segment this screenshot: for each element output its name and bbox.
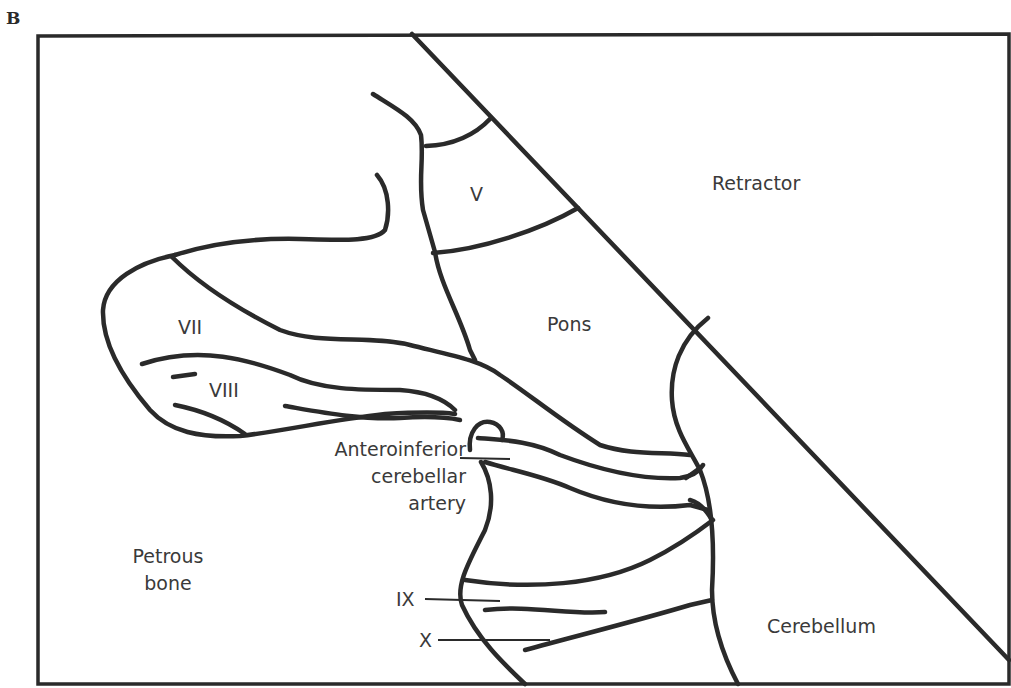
label-vii: VII — [178, 316, 202, 339]
trigeminal-nerve-upper-edge — [426, 118, 491, 146]
trigeminal-nerve-lower-edge — [433, 208, 578, 253]
label-ix: IX — [396, 588, 415, 611]
label-petrous-line2: bone — [118, 572, 218, 595]
label-pons: Pons — [547, 313, 591, 336]
label-aica-line2: cerebellar — [296, 465, 466, 488]
retractor-edge — [412, 34, 1009, 660]
label-aica-line1: Anteroinferior — [296, 438, 466, 461]
label-x: X — [419, 629, 432, 652]
aica-loop — [470, 422, 503, 450]
pons-right-contour — [672, 318, 738, 684]
nerve-ix-lower — [485, 609, 605, 613]
nerve-vii-inner-edge — [172, 257, 690, 455]
label-viii: VIII — [209, 379, 239, 402]
ix-leader-line — [425, 599, 500, 601]
label-retractor: Retractor — [712, 172, 800, 195]
nerve-x-upper — [525, 600, 712, 650]
aica-vessel-upper — [478, 438, 703, 478]
aica-leader-line — [460, 458, 510, 459]
hook-curve — [175, 175, 388, 255]
nerve-vii-outline — [103, 255, 455, 436]
label-cerebellum: Cerebellum — [767, 615, 876, 638]
label-aica-line3: artery — [296, 492, 466, 515]
label-petrous-bone: Petrous bone — [118, 545, 218, 595]
nerve-viii-short-mark — [173, 374, 195, 377]
label-petrous-line1: Petrous — [118, 545, 218, 568]
label-aica: Anteroinferior cerebellar artery — [296, 438, 466, 515]
trigeminal-nerve-outline-left — [373, 94, 475, 360]
brainstem-contour — [460, 462, 525, 684]
label-v: V — [470, 183, 483, 206]
nerve-ix-upper — [465, 520, 713, 585]
nerve-viii-upper-edge — [142, 355, 455, 410]
